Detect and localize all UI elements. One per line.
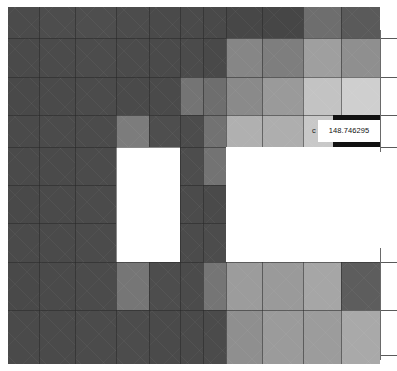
heatmap-cell[interactable] (262, 310, 303, 364)
heatmap-cell[interactable] (303, 77, 341, 115)
tooltip-value-box: 148.746295 (318, 120, 380, 142)
heatmap-cell[interactable] (39, 185, 75, 223)
heatmap-cell[interactable] (303, 38, 341, 77)
axis-tick-right (380, 38, 397, 39)
heatmap-cell[interactable] (116, 38, 149, 77)
tooltip-series-marker: c (312, 127, 316, 135)
heatmap-cell[interactable] (203, 77, 226, 115)
heatmap-cell[interactable] (116, 310, 149, 364)
heatmap-cell[interactable] (262, 38, 303, 77)
heatmap-cell[interactable] (180, 147, 203, 185)
heatmap-cell[interactable] (226, 7, 262, 38)
axis-tick-right (380, 310, 397, 311)
heatmap-cell[interactable] (262, 262, 303, 310)
heatmap-cell[interactable] (39, 7, 75, 38)
heatmap-cell[interactable] (149, 262, 180, 310)
heatmap-cell[interactable] (262, 77, 303, 115)
axis-tick-right (380, 115, 397, 116)
heatmap-cell[interactable] (116, 115, 149, 147)
heatmap-cell[interactable] (180, 310, 203, 364)
heatmap-figure: 148.746295 c (0, 0, 397, 371)
heatmap-cell[interactable] (75, 38, 116, 77)
heatmap-cell[interactable] (8, 77, 39, 115)
heatmap-cell[interactable] (75, 223, 116, 262)
heatmap-cell[interactable] (226, 262, 262, 310)
heatmap-cell[interactable] (341, 310, 380, 364)
heatmap-cell-missing (149, 147, 180, 185)
heatmap-cell[interactable] (180, 77, 203, 115)
axis-tick-right (380, 147, 397, 148)
heatmap-cell[interactable] (341, 77, 380, 115)
heatmap-cell[interactable] (75, 115, 116, 147)
heatmap-cell-missing (226, 223, 380, 262)
heatmap-cell-missing (116, 185, 149, 223)
heatmap-cell[interactable] (116, 77, 149, 115)
heatmap-cell[interactable] (8, 223, 39, 262)
heatmap-cell[interactable] (8, 115, 39, 147)
heatmap-cell[interactable] (149, 310, 180, 364)
heatmap-cell[interactable] (39, 38, 75, 77)
heatmap-cell[interactable] (75, 262, 116, 310)
heatmap-cell[interactable] (116, 262, 149, 310)
heatmap-cell[interactable] (203, 310, 226, 364)
heatmap-cell[interactable] (226, 77, 262, 115)
heatmap-cell[interactable] (303, 262, 341, 310)
heatmap-cell[interactable] (149, 7, 180, 38)
heatmap-cell[interactable] (203, 7, 226, 38)
heatmap-cell[interactable] (262, 115, 303, 147)
heatmap-cell[interactable] (8, 185, 39, 223)
heatmap-cell-missing (226, 147, 380, 185)
heatmap-cell[interactable] (75, 147, 116, 185)
axis-spine-right (380, 30, 381, 152)
heatmap-cell[interactable] (226, 38, 262, 77)
heatmap-cell[interactable] (180, 38, 203, 77)
heatmap-cell[interactable] (180, 223, 203, 262)
heatmap-cell[interactable] (39, 77, 75, 115)
heatmap-cell[interactable] (262, 7, 303, 38)
heatmap-cell[interactable] (75, 310, 116, 364)
heatmap-cell[interactable] (39, 310, 75, 364)
heatmap-cell[interactable] (203, 262, 226, 310)
heatmap-cell[interactable] (8, 147, 39, 185)
heatmap-cell[interactable] (39, 115, 75, 147)
heatmap-cell[interactable] (203, 115, 226, 147)
axis-spine-right (380, 248, 381, 360)
heatmap-cell[interactable] (75, 185, 116, 223)
heatmap-cell[interactable] (303, 310, 341, 364)
heatmap-cell[interactable] (341, 38, 380, 77)
heatmap-cell-missing (116, 223, 149, 262)
heatmap-cell[interactable] (8, 38, 39, 77)
heatmap-cell[interactable] (39, 147, 75, 185)
heatmap-cell[interactable] (180, 115, 203, 147)
heatmap-cell[interactable] (180, 262, 203, 310)
heatmap-cell[interactable] (149, 38, 180, 77)
heatmap-cell[interactable] (341, 262, 380, 310)
heatmap-cell[interactable] (8, 7, 39, 38)
heatmap-cell[interactable] (8, 310, 39, 364)
heatmap-cell[interactable] (226, 115, 262, 147)
heatmap-cell[interactable] (303, 7, 341, 38)
heatmap-cell[interactable] (75, 7, 116, 38)
heatmap-cell[interactable] (341, 7, 380, 38)
heatmap-cell[interactable] (116, 7, 149, 38)
heatmap-cell[interactable] (39, 223, 75, 262)
heatmap-cell[interactable] (149, 115, 180, 147)
heatmap-cell[interactable] (203, 223, 226, 262)
heatmap-cell[interactable] (149, 77, 180, 115)
axis-tick-right (380, 77, 397, 78)
heatmap-cell[interactable] (39, 262, 75, 310)
heatmap-cell[interactable] (203, 38, 226, 77)
heatmap-cell-missing (116, 147, 149, 185)
heatmap-cell[interactable] (8, 262, 39, 310)
heatmap-cell[interactable] (75, 77, 116, 115)
heatmap-cell[interactable] (180, 185, 203, 223)
heatmap-cell[interactable] (203, 147, 226, 185)
tooltip-value-text: 148.746295 (329, 127, 370, 135)
heatmap-cell[interactable] (226, 310, 262, 364)
heatmap-cell-missing (149, 223, 180, 262)
heatmap-plot-area[interactable]: 148.746295 c (8, 7, 380, 364)
heatmap-cell-missing (226, 185, 380, 223)
heatmap-cell[interactable] (180, 7, 203, 38)
heatmap-cell[interactable] (203, 185, 226, 223)
axis-tick-right (380, 262, 397, 263)
